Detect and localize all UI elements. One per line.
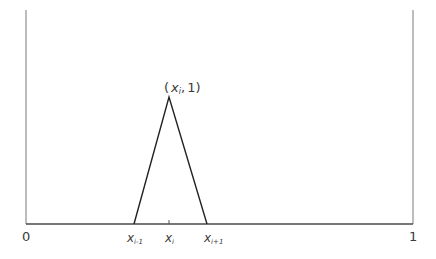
peak-label: (xi,1)	[164, 80, 201, 96]
hat-function-diagram: (xi,1) 0 1 xi-1 xi xi+1	[0, 0, 436, 259]
origin-label: 0	[22, 229, 30, 244]
hat-function-curve	[134, 97, 207, 224]
tick-label-x-i-minus-1: xi-1	[126, 231, 143, 246]
tick-label-x-i-plus-1: xi+1	[203, 231, 223, 246]
tick-label-x-i: xi	[164, 231, 174, 246]
end-label: 1	[409, 229, 417, 244]
